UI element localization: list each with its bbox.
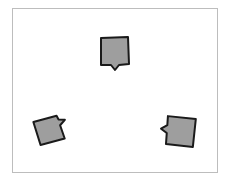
speech-bubble-top — [101, 37, 129, 70]
speech-bubble-left — [33, 114, 69, 145]
speech-bubble-right — [160, 116, 196, 147]
bubbles-canvas — [0, 0, 230, 188]
